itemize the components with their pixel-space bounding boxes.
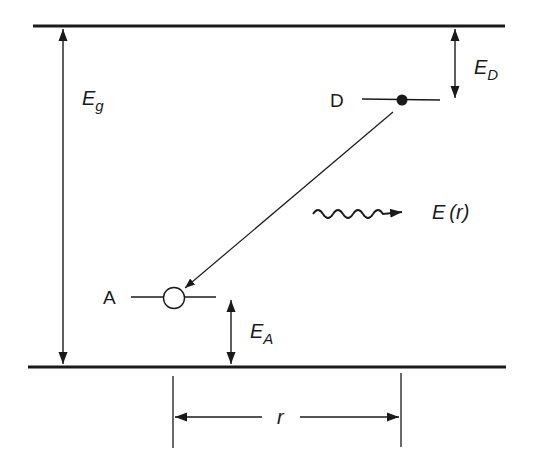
photon-wavy-arrow xyxy=(313,210,402,218)
donor-electron-dot xyxy=(397,95,408,106)
separation-label: r xyxy=(277,406,285,428)
dap-energy-diagram: Eg ED D A EA E(r) r xyxy=(0,0,536,470)
donor-label: D xyxy=(330,90,344,111)
donor-energy-label: ED xyxy=(474,56,498,83)
acceptor-hole-circle xyxy=(164,288,185,309)
emission-energy-label: E(r) xyxy=(432,201,469,223)
acceptor-label: A xyxy=(103,287,116,308)
transition-arrow xyxy=(185,112,393,288)
acceptor-energy-label: EA xyxy=(250,320,273,347)
band-gap-label: Eg xyxy=(82,87,104,114)
